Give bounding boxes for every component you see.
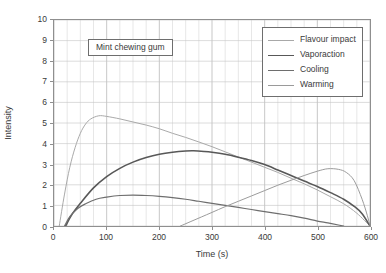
x-tick-mark (53, 227, 54, 230)
y-tick-label: 4 (7, 140, 47, 149)
y-tick-label: 7 (7, 77, 47, 86)
annotation-label: Mint chewing gum (88, 39, 173, 56)
legend-line-icon (268, 65, 294, 75)
x-tick-mark (265, 227, 266, 230)
y-tick-mark (50, 40, 53, 41)
x-tick-label: 0 (33, 233, 73, 242)
x-tick-label: 500 (298, 233, 338, 242)
x-tick-mark (212, 227, 213, 230)
chart-figure: 012345678910 0100200300400500600 Intensi… (0, 0, 386, 273)
y-tick-label: 9 (7, 36, 47, 45)
y-tick-mark (50, 81, 53, 82)
y-tick-mark (50, 165, 53, 166)
y-tick-label: 5 (7, 119, 47, 128)
x-tick-mark (318, 227, 319, 230)
legend-line-icon (268, 80, 294, 90)
x-tick-label: 400 (245, 233, 285, 242)
legend-item[interactable]: Cooling (268, 62, 356, 77)
legend-label: Warming (300, 80, 334, 89)
legend-label: Cooling (300, 65, 329, 74)
legend-line-icon (268, 35, 294, 45)
y-tick-label: 10 (7, 15, 47, 24)
legend-label: Flavour impact (300, 35, 356, 44)
legend: Flavour impactVaporactionCoolingWarming (262, 27, 363, 97)
y-axis-title: Intensity (3, 78, 13, 168)
x-axis-title: Time (s) (53, 249, 371, 259)
y-tick-mark (50, 206, 53, 207)
x-tick-label: 200 (139, 233, 179, 242)
y-tick-mark (50, 123, 53, 124)
y-tick-mark (50, 185, 53, 186)
y-tick-label: 0 (7, 223, 47, 232)
y-tick-mark (50, 144, 53, 145)
y-axis-title-host: Intensity (22, 19, 23, 227)
y-tick-label: 1 (7, 202, 47, 211)
x-tick-label: 300 (192, 233, 232, 242)
y-tick-mark (50, 61, 53, 62)
legend-item[interactable]: Vaporaction (268, 47, 356, 62)
x-tick-label: 600 (351, 233, 386, 242)
y-tick-label: 3 (7, 161, 47, 170)
legend-item[interactable]: Flavour impact (268, 32, 356, 47)
y-tick-label: 2 (7, 181, 47, 190)
legend-item[interactable]: Warming (268, 77, 356, 92)
x-tick-mark (106, 227, 107, 230)
y-tick-mark (50, 19, 53, 20)
x-tick-label: 100 (86, 233, 126, 242)
legend-label: Vaporaction (300, 50, 345, 59)
y-tick-mark (50, 102, 53, 103)
legend-line-icon (268, 50, 294, 60)
y-tick-label: 8 (7, 57, 47, 66)
x-tick-mark (371, 227, 372, 230)
y-tick-label: 6 (7, 98, 47, 107)
x-tick-mark (159, 227, 160, 230)
